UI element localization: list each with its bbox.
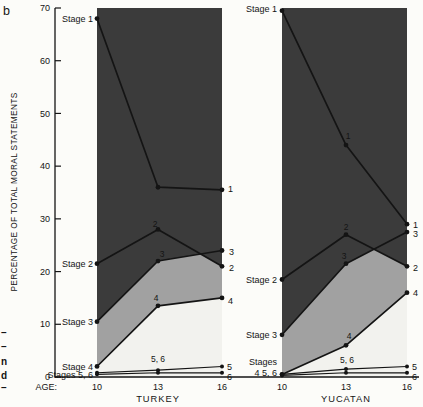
margin-fragment: – [1, 341, 7, 352]
data-point [220, 187, 225, 192]
chart-label: 4 5, 6 [254, 368, 277, 378]
data-point [280, 332, 285, 337]
margin-fragment: – [1, 327, 7, 338]
data-point [220, 296, 225, 301]
chart-label: 1 [228, 184, 233, 194]
data-point [95, 319, 100, 324]
data-point [95, 372, 99, 376]
data-point [280, 8, 285, 13]
chart-label: 5 [412, 362, 417, 372]
data-point [344, 232, 349, 237]
x-tick-label: 16 [217, 382, 227, 392]
data-point [95, 364, 100, 369]
panel-letter: b [3, 4, 10, 18]
data-point [344, 143, 349, 148]
chart-label: 2 [413, 263, 418, 273]
y-tick-label: 70 [40, 3, 50, 13]
chart-label: 5, 6 [151, 354, 165, 364]
chart-label: 5, 6 [340, 355, 354, 365]
margin-fragment: – [1, 382, 7, 393]
data-point [220, 364, 224, 368]
data-point [344, 367, 348, 371]
panel-caption: YUCATAN [321, 394, 371, 404]
margin-fragment: n [1, 356, 7, 367]
data-point [220, 248, 225, 253]
chart-label: Stage 2 [246, 275, 277, 285]
x-tick-label: 13 [341, 382, 351, 392]
figure-panel-b: Stage 1Stage 2Stage 3Stage 4Stages 5, 62… [0, 0, 423, 407]
chart-label: Stage 1 [246, 4, 277, 14]
data-point [344, 343, 349, 348]
chart-label: Stage 1 [62, 14, 93, 24]
chart-svg: Stage 1Stage 2Stage 3Stage 4Stages 5, 62… [0, 0, 423, 407]
data-point [344, 261, 349, 266]
chart-label: 2 [153, 219, 158, 229]
panel-yucatan: Stage 1Stage 2Stage 3Stages4 5, 612345, … [246, 4, 418, 404]
y-axis-title: PERCENTAGE OF TOTAL MORAL STATEMENTS [9, 92, 19, 291]
y-tick-label: 10 [40, 319, 50, 329]
x-tick-label: 10 [277, 382, 287, 392]
chart-label: 3 [160, 249, 165, 259]
chart-label: 1 [346, 131, 351, 141]
data-point [405, 230, 410, 235]
y-tick-label: 20 [40, 267, 50, 277]
y-tick-label: 60 [40, 56, 50, 66]
chart-label: 4 [347, 331, 352, 341]
data-point [156, 185, 161, 190]
y-tick-label: 30 [40, 214, 50, 224]
chart-label: Stages 5, 6 [47, 370, 93, 380]
chart-label: 5 [227, 362, 232, 372]
panel-caption: TURKEY [136, 394, 180, 404]
chart-label: Stages [249, 357, 278, 367]
margin-fragment: d [1, 370, 7, 381]
data-point [405, 364, 409, 368]
panel-turkey: Stage 1Stage 2Stage 3Stage 4Stages 5, 62… [47, 8, 234, 404]
data-point [405, 222, 410, 227]
chart-label: 3 [413, 229, 418, 239]
y-tick-label: 40 [40, 161, 50, 171]
data-point [405, 264, 410, 269]
age-label: AGE: [35, 382, 57, 392]
y-tick-label: 50 [40, 109, 50, 119]
chart-label: 2 [229, 263, 234, 273]
data-point [156, 303, 161, 308]
data-point [95, 261, 100, 266]
chart-label: Stage 3 [62, 317, 93, 327]
chart-label: 4 [413, 288, 418, 298]
chart-label: 4 [228, 296, 233, 306]
data-point [405, 371, 409, 375]
data-point [280, 277, 285, 282]
data-point [156, 259, 161, 264]
data-point [220, 264, 225, 269]
chart-label: 3 [229, 247, 234, 257]
data-point [95, 16, 100, 21]
data-point [156, 371, 160, 375]
chart-label: Stage 2 [62, 259, 93, 269]
chart-label: 3 [342, 251, 347, 261]
x-tick-label: 16 [402, 382, 412, 392]
x-tick-label: 13 [153, 382, 163, 392]
chart-label: 2 [344, 222, 349, 232]
data-point [220, 371, 224, 375]
chart-label: Stage 3 [246, 330, 277, 340]
x-tick-label: 10 [92, 382, 102, 392]
chart-label: 4 [154, 293, 159, 303]
data-point [405, 290, 410, 295]
data-point [344, 371, 348, 375]
